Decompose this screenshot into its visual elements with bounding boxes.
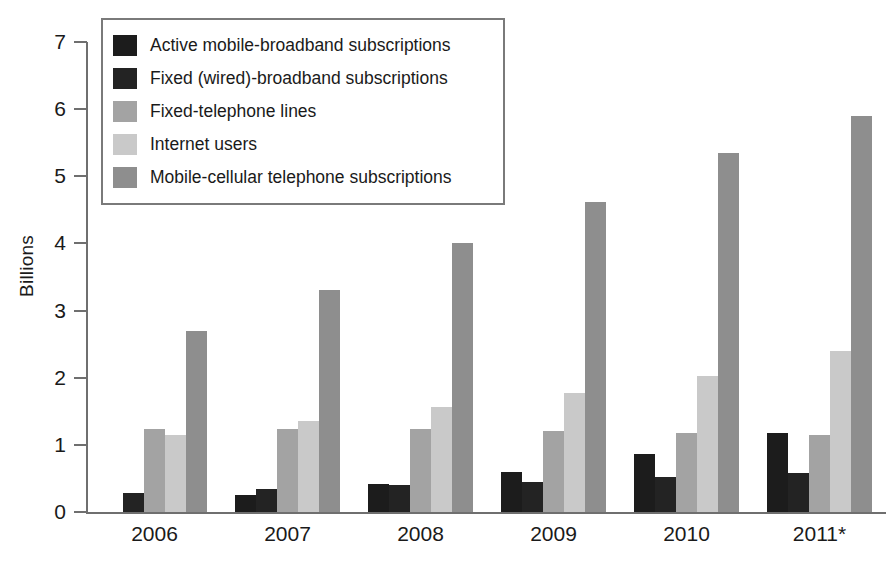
bar bbox=[410, 429, 431, 512]
y-axis-tick-mark bbox=[74, 41, 87, 43]
y-axis-tick-label: 0 bbox=[26, 500, 66, 524]
bar bbox=[851, 116, 872, 512]
x-axis-label-2009: 2009 bbox=[530, 522, 577, 546]
bar bbox=[368, 484, 389, 512]
legend-item: Internet users bbox=[113, 128, 493, 161]
bar bbox=[144, 429, 165, 512]
legend-item-label: Mobile-cellular telephone subscriptions bbox=[150, 169, 452, 187]
bar bbox=[634, 454, 655, 512]
bar bbox=[256, 489, 277, 512]
y-axis-tick-label: 2 bbox=[26, 366, 66, 390]
x-axis-label-2008: 2008 bbox=[397, 522, 444, 546]
bar bbox=[452, 243, 473, 512]
bar bbox=[655, 477, 676, 512]
bar bbox=[501, 472, 522, 512]
x-axis-label-2006: 2006 bbox=[131, 522, 178, 546]
legend-item: Fixed (wired)-broadband subscriptions bbox=[113, 62, 493, 95]
legend-swatch-icon bbox=[113, 35, 137, 56]
y-axis-tick-label: 3 bbox=[26, 299, 66, 323]
bar bbox=[830, 351, 851, 512]
bar bbox=[564, 393, 585, 513]
bar bbox=[676, 433, 697, 512]
y-axis-tick-mark bbox=[74, 242, 87, 244]
legend-swatch-icon bbox=[113, 167, 137, 188]
legend-item-label: Fixed-telephone lines bbox=[150, 103, 316, 121]
legend-swatch-icon bbox=[113, 134, 137, 155]
bar bbox=[389, 485, 410, 512]
x-axis-label-2011: 2011* bbox=[793, 522, 846, 546]
bar bbox=[319, 290, 340, 512]
bar bbox=[543, 431, 564, 512]
bar bbox=[809, 435, 830, 512]
x-axis-label-2007: 2007 bbox=[264, 522, 311, 546]
legend-item: Fixed-telephone lines bbox=[113, 95, 493, 128]
bar bbox=[767, 433, 788, 512]
y-axis-tick-mark bbox=[74, 377, 87, 379]
legend-item: Mobile-cellular telephone subscriptions bbox=[113, 161, 493, 194]
y-axis-tick-mark bbox=[74, 310, 87, 312]
legend-swatch-icon bbox=[113, 68, 137, 89]
bar bbox=[585, 202, 606, 512]
y-axis-tick-label: 5 bbox=[26, 164, 66, 188]
y-axis-tick-mark bbox=[74, 108, 87, 110]
x-axis-label-2010: 2010 bbox=[663, 522, 710, 546]
bar bbox=[697, 376, 718, 512]
bar bbox=[235, 495, 256, 512]
y-axis-tick-label: 7 bbox=[26, 30, 66, 54]
y-axis-tick-mark bbox=[74, 175, 87, 177]
bar bbox=[298, 421, 319, 512]
bar bbox=[186, 331, 207, 512]
legend-swatch-icon bbox=[113, 101, 137, 122]
x-axis-line bbox=[86, 512, 886, 514]
bar bbox=[123, 493, 144, 512]
legend-item-label: Internet users bbox=[150, 136, 257, 154]
bar bbox=[431, 407, 452, 512]
legend-item-label: Active mobile-broadband subscriptions bbox=[150, 37, 451, 55]
legend-item-label: Fixed (wired)-broadband subscriptions bbox=[150, 70, 448, 88]
legend-item: Active mobile-broadband subscriptions bbox=[113, 29, 493, 62]
bar bbox=[718, 153, 739, 512]
bar bbox=[277, 429, 298, 512]
bar bbox=[165, 435, 186, 512]
chart-legend: Active mobile-broadband subscriptionsFix… bbox=[101, 18, 505, 205]
bar bbox=[522, 482, 543, 512]
y-axis-tick-mark bbox=[74, 444, 87, 446]
bar bbox=[788, 473, 809, 512]
y-axis-tick-label: 1 bbox=[26, 433, 66, 457]
bar-chart: Billions 01234567 2006200720082009201020… bbox=[0, 0, 893, 565]
y-axis-tick-label: 6 bbox=[26, 97, 66, 121]
y-axis-tick-label: 4 bbox=[26, 231, 66, 255]
